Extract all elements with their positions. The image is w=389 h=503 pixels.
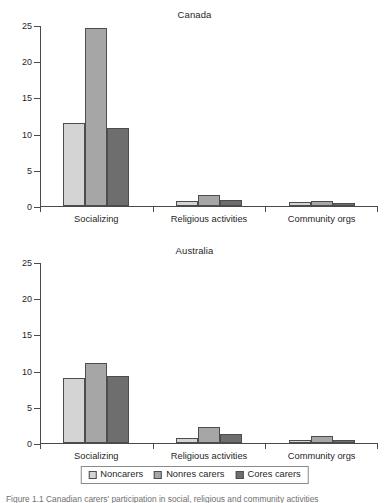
- bar-cores-carers-socializing: [107, 376, 129, 443]
- x-axis-label-religious-activities: Religious activities: [171, 451, 247, 462]
- chart-title-australia: Australia: [0, 245, 389, 257]
- x-axis-tick: [40, 207, 41, 212]
- x-axis-tick: [265, 444, 266, 449]
- x-axis-line: [40, 443, 378, 444]
- legend-item-label: Nonres carers: [166, 469, 224, 480]
- y-axis-tick-label: 25: [22, 22, 32, 31]
- legend-swatch-icon: [88, 471, 96, 479]
- y-axis-tick-label: 10: [22, 130, 32, 139]
- y-axis-tick-label: 10: [22, 367, 32, 376]
- bar-nonres-carers-religious-activities: [198, 427, 220, 443]
- plot-area-australia: 0510152025SocializingReligious activitie…: [40, 263, 378, 444]
- y-axis-tick-label: 25: [22, 259, 32, 268]
- plot-area-canada: 0510152025SocializingReligious activitie…: [40, 26, 378, 207]
- y-axis-line: [40, 263, 41, 444]
- y-axis-tick: [34, 26, 40, 27]
- bar-noncarers-socializing: [63, 378, 85, 443]
- figure-root: Canada 0510152025SocializingReligious ac…: [0, 0, 389, 503]
- y-axis-tick-label: 5: [27, 166, 32, 175]
- bar-noncarers-socializing: [63, 123, 85, 206]
- bar-nonres-carers-socializing: [85, 363, 107, 443]
- y-axis-tick: [34, 263, 40, 264]
- bar-nonres-carers-socializing: [85, 28, 107, 206]
- figure-caption: Figure 1.1 Canadian carers' participatio…: [6, 494, 386, 503]
- bar-cores-carers-religious-activities: [220, 200, 242, 206]
- y-axis-tick: [34, 335, 40, 336]
- y-axis-tick-label: 0: [27, 440, 32, 449]
- x-axis-tick: [153, 444, 154, 449]
- chart-title-canada: Canada: [0, 9, 389, 21]
- x-axis-line: [40, 206, 378, 207]
- x-axis-tick: [153, 207, 154, 212]
- bar-nonres-carers-community-orgs: [311, 436, 333, 443]
- y-axis-tick-label: 0: [27, 203, 32, 212]
- x-axis-tick: [265, 207, 266, 212]
- y-axis-tick: [34, 372, 40, 373]
- chart-legend: NoncarersNonres carersCores carers: [80, 466, 309, 484]
- bar-noncarers-community-orgs: [289, 202, 311, 206]
- y-axis-tick: [34, 98, 40, 99]
- y-axis-tick: [34, 62, 40, 63]
- legend-swatch-icon: [154, 471, 162, 479]
- bar-nonres-carers-community-orgs: [311, 201, 333, 206]
- bar-noncarers-religious-activities: [176, 438, 198, 443]
- x-axis-label-socializing: Socializing: [74, 214, 118, 225]
- bar-cores-carers-community-orgs: [333, 203, 355, 206]
- legend-item-label: Cores carers: [248, 469, 301, 480]
- chart-panel-australia: Australia 0510152025SocializingReligious…: [0, 240, 389, 462]
- x-axis-label-community-orgs: Community orgs: [288, 451, 356, 462]
- y-axis-tick: [34, 299, 40, 300]
- legend-item-cores-carers: Cores carers: [236, 469, 301, 480]
- y-axis-tick: [34, 408, 40, 409]
- y-axis-tick: [34, 135, 40, 136]
- y-axis-tick-label: 15: [22, 331, 32, 340]
- bar-cores-carers-socializing: [107, 128, 129, 206]
- y-axis-tick: [34, 171, 40, 172]
- x-axis-label-religious-activities: Religious activities: [171, 214, 247, 225]
- bar-noncarers-religious-activities: [176, 201, 198, 206]
- y-axis-tick-label: 5: [27, 403, 32, 412]
- legend-swatch-icon: [236, 471, 244, 479]
- x-axis-label-community-orgs: Community orgs: [288, 214, 356, 225]
- y-axis-line: [40, 26, 41, 207]
- x-axis-tick: [377, 207, 378, 212]
- x-axis-tick: [40, 444, 41, 449]
- x-axis-label-socializing: Socializing: [74, 451, 118, 462]
- bar-nonres-carers-religious-activities: [198, 195, 220, 206]
- legend-item-label: Noncarers: [100, 469, 143, 480]
- chart-panel-canada: Canada 0510152025SocializingReligious ac…: [0, 0, 389, 240]
- bar-cores-carers-community-orgs: [333, 440, 355, 443]
- legend-item-noncarers: Noncarers: [88, 469, 143, 480]
- y-axis-tick-label: 20: [22, 58, 32, 67]
- y-axis-tick-label: 15: [22, 94, 32, 103]
- legend-item-nonres-carers: Nonres carers: [154, 469, 224, 480]
- bar-noncarers-community-orgs: [289, 440, 311, 443]
- x-axis-tick: [377, 444, 378, 449]
- y-axis-tick-label: 20: [22, 295, 32, 304]
- bar-cores-carers-religious-activities: [220, 434, 242, 443]
